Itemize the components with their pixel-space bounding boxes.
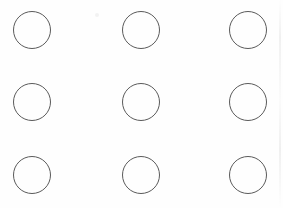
circle-shape[interactable] — [229, 156, 267, 194]
circle-shape[interactable] — [122, 83, 160, 121]
circle-shape[interactable] — [229, 83, 267, 121]
circle-grid-canvas — [0, 0, 283, 208]
circle-shape[interactable] — [13, 11, 51, 49]
circle-shape[interactable] — [229, 11, 267, 49]
circle-grid — [0, 0, 283, 208]
circle-shape[interactable] — [13, 83, 51, 121]
circle-outline-icon — [229, 83, 267, 121]
circle-outline-icon — [122, 11, 160, 49]
circle-outline-icon — [229, 156, 267, 194]
circle-outline-icon — [13, 11, 51, 49]
circle-outline-icon — [13, 156, 51, 194]
circle-outline-icon — [13, 83, 51, 121]
circle-outline-icon — [122, 83, 160, 121]
circle-shape[interactable] — [122, 11, 160, 49]
circle-shape[interactable] — [13, 156, 51, 194]
circle-shape[interactable] — [122, 156, 160, 194]
circle-outline-icon — [122, 156, 160, 194]
circle-outline-icon — [229, 11, 267, 49]
